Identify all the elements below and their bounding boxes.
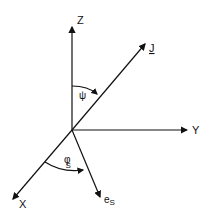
- es-vector: [72, 130, 100, 197]
- y-axis-label: Y: [192, 124, 200, 136]
- phi-s-label: φS: [64, 154, 71, 170]
- coordinate-diagram: Z Y J X eS ψ φS: [0, 0, 210, 217]
- psi-label: ψ: [79, 90, 86, 101]
- j-label: J: [149, 42, 155, 54]
- z-axis-label: Z: [77, 14, 84, 26]
- es-label: eS: [104, 194, 115, 207]
- x-axis-label: X: [19, 198, 27, 210]
